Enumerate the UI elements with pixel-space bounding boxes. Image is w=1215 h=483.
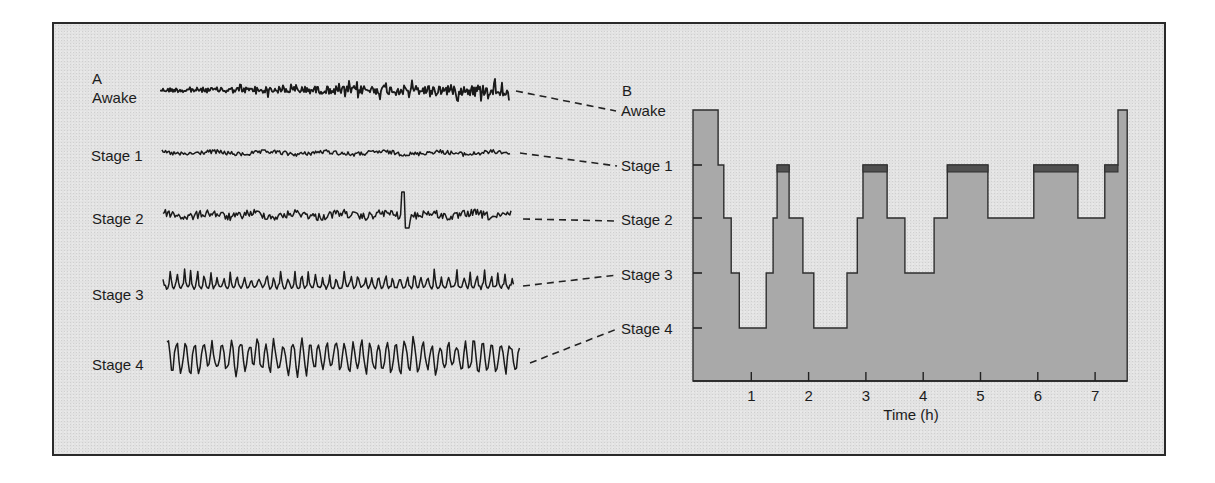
stage-label: Stage 3 <box>621 266 673 283</box>
trace-label: Stage 4 <box>92 356 144 373</box>
x-tick-label: 1 <box>747 387 755 404</box>
eeg-waveform <box>160 79 509 101</box>
dashed-connector <box>523 275 617 286</box>
eeg-waveform <box>167 336 520 377</box>
eeg-waveform <box>163 192 511 228</box>
figure-canvas: A AwakeStage 1Stage 2Stage 3Stage 4 B Aw… <box>0 0 1215 483</box>
eeg-trace-stage-4: Stage 4 <box>92 329 617 377</box>
x-tick-label: 5 <box>976 387 984 404</box>
x-tick-label: 7 <box>1091 387 1099 404</box>
stage-label: Stage 4 <box>621 320 673 337</box>
panel-a-eeg-traces: A AwakeStage 1Stage 2Stage 3Stage 4 <box>91 70 617 377</box>
rem-band <box>1105 165 1118 172</box>
hypnogram-area <box>693 110 1127 381</box>
rem-band <box>947 165 988 172</box>
x-tick-label: 6 <box>1034 387 1042 404</box>
eeg-waveform <box>162 150 510 157</box>
x-axis-title: Time (h) <box>883 406 938 423</box>
eeg-trace-stage-3: Stage 3 <box>92 269 617 303</box>
rem-band <box>1034 165 1078 172</box>
dashed-connector <box>523 219 617 221</box>
eeg-trace-stage-1: Stage 1 <box>91 147 617 166</box>
hypnogram-plot <box>693 110 1127 381</box>
panel-a-label: A <box>92 70 102 87</box>
trace-label: Stage 1 <box>91 147 143 164</box>
stage-label: Stage 1 <box>621 157 673 174</box>
stage-label: Awake <box>621 102 666 119</box>
rem-band <box>863 165 887 172</box>
panel-b-label: B <box>622 82 632 99</box>
eeg-trace-stage-2: Stage 2 <box>92 192 617 228</box>
x-tick-label: 4 <box>919 387 927 404</box>
stage-label: Stage 2 <box>621 211 673 228</box>
dashed-connector <box>516 91 616 111</box>
trace-label: Awake <box>92 89 137 106</box>
dashed-connector <box>520 153 617 166</box>
x-tick-label: 3 <box>862 387 870 404</box>
eeg-trace-awake: Awake <box>92 79 616 111</box>
trace-label: Stage 2 <box>92 210 144 227</box>
trace-label: Stage 3 <box>92 286 144 303</box>
stage-axis-labels: AwakeStage 1Stage 2Stage 3Stage 4 <box>621 102 673 337</box>
panel-b-hypnogram: B AwakeStage 1Stage 2Stage 3Stage 4 1234… <box>621 82 1127 423</box>
eeg-waveform <box>163 269 513 290</box>
x-tick-label: 2 <box>804 387 812 404</box>
eeg-trace-group: AwakeStage 1Stage 2Stage 3Stage 4 <box>91 79 617 377</box>
dashed-connector <box>530 329 617 363</box>
rem-band <box>777 165 789 172</box>
